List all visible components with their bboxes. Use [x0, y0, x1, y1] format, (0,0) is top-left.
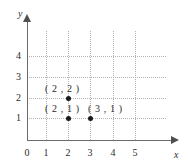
y-tick-4: 4: [7, 51, 21, 61]
x-tick-5: 5: [128, 148, 142, 158]
gridline-horizontal-y2: [27, 98, 166, 99]
data-point-label-3-1: ( 3 , 1 ): [88, 104, 123, 114]
y-axis-arrow-icon: [23, 14, 31, 22]
y-tick-3: 3: [7, 72, 21, 82]
gridline-vertical-x3: [90, 31, 91, 140]
gridline-horizontal-y1: [27, 118, 166, 119]
data-point-2-2: [66, 96, 71, 101]
x-tick-0: 0: [20, 148, 34, 158]
gridline-vertical-x5: [135, 31, 136, 140]
gridline-horizontal-y3: [27, 77, 166, 78]
x-axis-label: x: [174, 150, 178, 160]
gridline-vertical-x4: [113, 31, 114, 140]
data-point-label-2-1: ( 2 , 1 ): [45, 104, 80, 114]
x-tick-4: 4: [106, 148, 120, 158]
data-point-2-1: [66, 116, 71, 121]
x-tick-1: 1: [39, 148, 53, 158]
x-tick-2: 2: [61, 148, 75, 158]
x-axis-line: [27, 140, 172, 141]
data-point-label-2-2: ( 2 , 2 ): [45, 84, 80, 94]
coordinate-plane-figure: y x 0 1 2 3 4 5 1 2 3 4 ( 2 , 2 ) ( 2 , …: [0, 0, 189, 168]
y-tick-2: 2: [7, 93, 21, 103]
x-tick-3: 3: [83, 148, 97, 158]
data-point-3-1: [88, 116, 93, 121]
y-axis-label: y: [18, 9, 22, 19]
x-axis-arrow-icon: [171, 136, 179, 144]
y-axis-line: [27, 21, 28, 140]
y-tick-1: 1: [7, 113, 21, 123]
gridline-horizontal-y4: [27, 56, 166, 57]
